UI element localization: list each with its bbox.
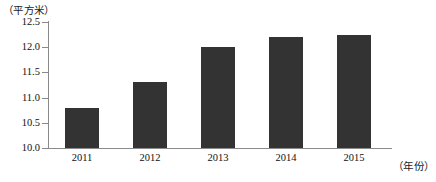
y-tick-label-wrap: 11.0 xyxy=(2,93,40,103)
x-axis-unit-label: （年份） xyxy=(393,158,434,173)
y-tick-label: 11.5 xyxy=(6,67,40,77)
y-tick-label-wrap: 10.5 xyxy=(2,118,40,128)
plot-area xyxy=(48,22,388,148)
bar xyxy=(269,37,303,148)
y-tick-label-wrap: 12.0 xyxy=(2,42,40,52)
bar xyxy=(201,47,235,148)
bar xyxy=(65,108,99,148)
y-tick-label: 11.0 xyxy=(6,93,40,103)
y-tick-label: 10.5 xyxy=(6,118,40,128)
y-axis-unit-label: （平方米） xyxy=(3,2,55,17)
x-axis-line xyxy=(48,148,392,149)
bar xyxy=(133,82,167,148)
y-tick-label: 12.0 xyxy=(6,42,40,52)
y-tick-label-wrap: 11.5 xyxy=(2,67,40,77)
y-tick-mark xyxy=(42,148,48,149)
x-tick-label: 2014 xyxy=(262,152,310,164)
x-tick-label: 2011 xyxy=(58,152,106,164)
y-tick-label-wrap: 12.5 xyxy=(2,17,40,27)
y-tick-label-wrap: 10.0 xyxy=(2,143,40,153)
x-tick-label: 2012 xyxy=(126,152,174,164)
bar-chart: （平方米） （年份） 12.512.011.511.010.510.0 2011… xyxy=(0,0,436,182)
bar xyxy=(337,35,371,148)
x-tick-label: 2015 xyxy=(330,152,378,164)
y-tick-label: 10.0 xyxy=(6,143,40,153)
x-tick-label: 2013 xyxy=(194,152,242,164)
y-tick-label: 12.5 xyxy=(6,17,40,27)
